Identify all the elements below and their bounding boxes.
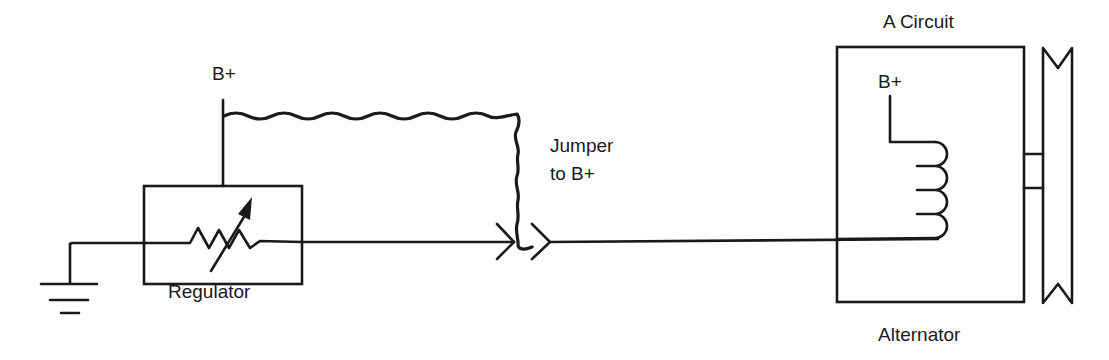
regulator-b-plus-label: B+ [212, 63, 236, 84]
alternator-b-plus-lead [890, 96, 935, 142]
regulator [144, 186, 302, 284]
pulley-icon [1043, 48, 1072, 303]
jumper-label-line1: Jumper [550, 135, 614, 156]
jumper-label-line2: to B+ [550, 163, 595, 184]
shaft-icon [1024, 154, 1043, 188]
ground-icon [41, 244, 97, 313]
regulator-label: Regulator [168, 281, 251, 302]
variable-resistor-icon [145, 228, 302, 248]
alternator-title: A Circuit [883, 11, 954, 32]
a-circuit-diagram: Regulator B+ Jumper to B+ A Circuit B+ A… [0, 0, 1109, 360]
ground-wire [70, 243, 145, 244]
alternator-label: Alternator [878, 324, 961, 345]
jumper-wire [224, 113, 532, 249]
field-coil-icon [838, 142, 947, 239]
alternator-b-plus-label: B+ [878, 71, 902, 92]
variable-arrow-icon [211, 212, 247, 271]
arrowhead-icon [238, 197, 252, 220]
alternator-box [837, 47, 1024, 302]
alternator [837, 47, 1024, 302]
